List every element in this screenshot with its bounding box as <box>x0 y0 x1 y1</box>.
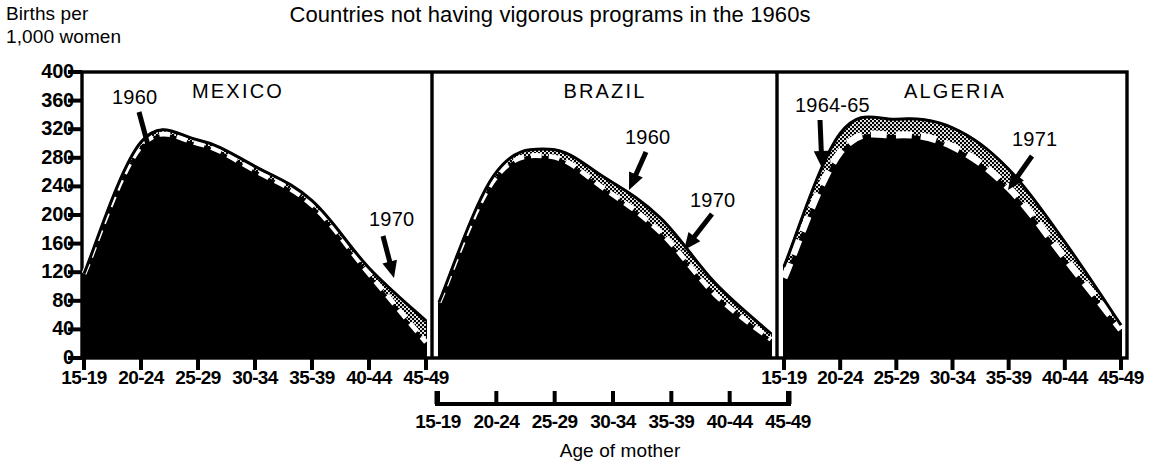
arrow-brazil-1960 <box>629 152 646 190</box>
chart-canvas: Births per 1,000 women Countries not hav… <box>0 0 1171 472</box>
arrow-brazil-1970 <box>684 214 712 250</box>
panel-mexico <box>84 130 426 358</box>
panel-algeria <box>784 117 1121 358</box>
panel-brazil <box>439 149 771 358</box>
area-algeria-1971 <box>784 134 1121 358</box>
arrow-mexico-1970 <box>382 236 397 278</box>
plot-graphics <box>0 0 1171 472</box>
